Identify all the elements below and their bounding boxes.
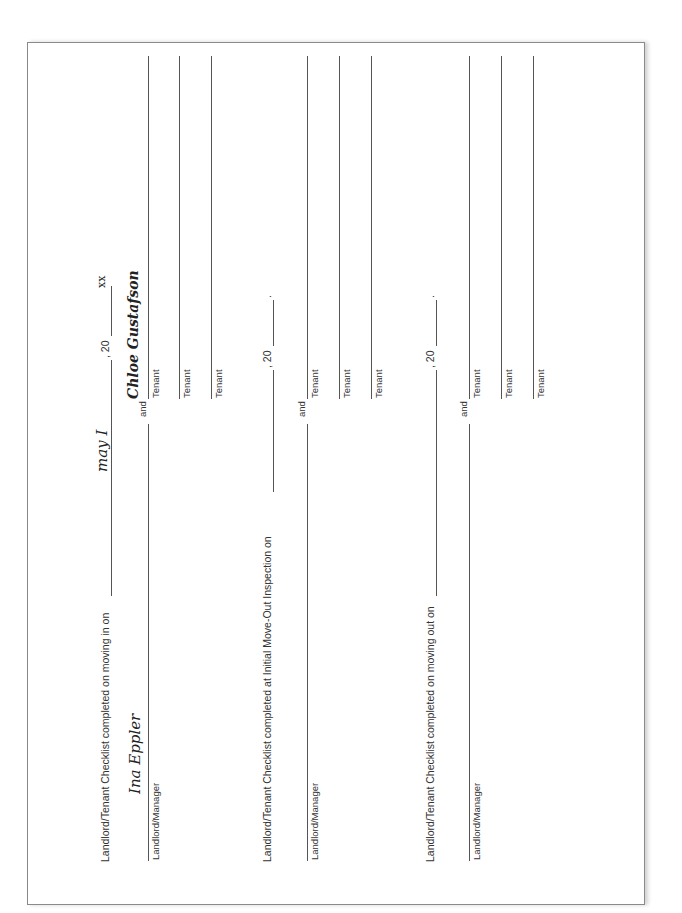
section-heading: Landlord/Tenant Checklist completed at I… — [262, 536, 273, 862]
section-heading: Landlord/Tenant Checklist completed on m… — [425, 606, 436, 862]
tenant-label-2: Tenant — [504, 369, 514, 398]
tenant-label-3: Tenant — [374, 369, 384, 398]
landlord-label: Landlord/Manager — [310, 783, 320, 860]
landlord-signature: Ina Eppler — [128, 714, 143, 794]
year-line[interactable] — [273, 300, 274, 346]
tenant-label-1: Tenant — [310, 369, 320, 398]
tenant-label-1: Tenant — [472, 369, 482, 398]
and-label: and — [459, 401, 469, 417]
tenant-signature-line-1[interactable] — [148, 56, 149, 399]
year-line[interactable] — [436, 300, 437, 346]
landlord-signature-line[interactable] — [148, 424, 149, 861]
tenant-signature-line-2[interactable] — [179, 56, 180, 399]
and-label: and — [138, 401, 148, 417]
tenant-signature-line-2[interactable] — [339, 56, 340, 399]
tenant-signature-line-2[interactable] — [501, 56, 502, 399]
tenant-label-3: Tenant — [536, 369, 546, 398]
checklist-page: Landlord/Tenant Checklist completed on m… — [27, 42, 645, 905]
tenant-signature-line-1[interactable] — [469, 56, 470, 399]
tenant-signature-line-3[interactable] — [371, 56, 372, 399]
landlord-label: Landlord/Manager — [472, 783, 482, 860]
date-line[interactable] — [273, 370, 274, 492]
tenant-signature-line-3[interactable] — [211, 56, 212, 399]
date-line[interactable] — [111, 360, 112, 596]
landlord-label: Landlord/Manager — [151, 783, 161, 860]
tenant-label-2: Tenant — [182, 369, 192, 398]
tenant-signature-line-1[interactable] — [307, 56, 308, 399]
year-suffix: . — [262, 295, 273, 298]
tenant-label-3: Tenant — [214, 369, 224, 398]
and-label: and — [297, 401, 307, 417]
tenant-signature-line-3[interactable] — [533, 56, 534, 399]
tenant-label-1: Tenant — [151, 369, 161, 398]
date-value: may I — [95, 430, 110, 472]
year-value: xx — [96, 276, 107, 288]
year-prefix: , 20 — [262, 350, 273, 368]
landlord-signature-line[interactable] — [307, 424, 308, 861]
landlord-signature-line[interactable] — [469, 424, 470, 861]
section-heading: Landlord/Tenant Checklist completed on m… — [100, 613, 111, 862]
year-prefix: , 20 — [425, 350, 436, 368]
year-suffix: . — [425, 295, 436, 298]
tenant-label-2: Tenant — [342, 369, 352, 398]
date-line[interactable] — [436, 370, 437, 596]
year-prefix: , 20 — [100, 340, 111, 358]
year-line[interactable] — [111, 286, 112, 336]
tenant-signature: Chloe Gustafson — [126, 270, 140, 399]
